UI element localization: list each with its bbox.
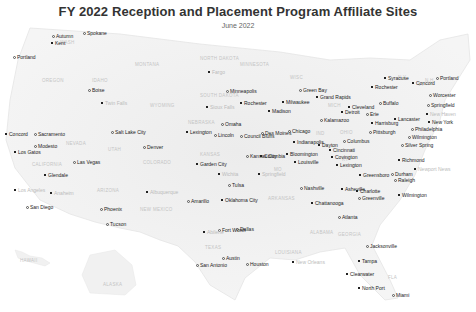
city-label: Twin Falls — [105, 101, 127, 106]
affiliate-square-marker-icon — [412, 82, 414, 84]
affiliate-square-marker-icon — [348, 106, 350, 108]
state-label: ARIZONA — [97, 188, 119, 193]
affiliate-ring-marker-icon — [34, 133, 37, 136]
affiliate-square-marker-icon — [292, 261, 294, 263]
affiliate-ring-marker-icon — [106, 223, 109, 226]
state-label: ARKANSAS — [268, 196, 295, 201]
affiliate-square-marker-icon — [398, 159, 400, 161]
affiliate-ring-marker-icon — [34, 145, 37, 148]
affiliate-ring-marker-icon — [300, 187, 303, 190]
map-canvas: FY 2022 Reception and Placement Program … — [0, 0, 476, 312]
affiliate-square-marker-icon — [146, 191, 148, 193]
affiliate-square-marker-icon — [50, 192, 52, 194]
city-label: Boise — [92, 88, 105, 93]
affiliate-ring-marker-icon — [111, 131, 114, 134]
city-label: Clearwater — [350, 272, 374, 277]
city-label: Atlanta — [342, 215, 358, 220]
city-label: Kalamazoo — [324, 118, 349, 123]
affiliate-square-marker-icon — [294, 161, 296, 163]
affiliate-ring-marker-icon — [261, 132, 264, 135]
affiliate-square-marker-icon — [240, 102, 242, 104]
city-label: Chicago — [292, 129, 310, 134]
state-label: COLORADO — [143, 160, 171, 165]
map-title: FY 2022 Reception and Placement Program … — [0, 4, 476, 19]
city-label: Rochester — [375, 85, 398, 90]
state-label: IND — [316, 131, 325, 136]
state-label: NEVADA — [66, 141, 86, 146]
state-label: FLA — [388, 275, 397, 280]
city-label: Greensboro — [363, 173, 389, 178]
state-label: NORTH DAKOTA — [200, 56, 239, 61]
affiliate-square-marker-icon — [371, 122, 373, 124]
affiliate-square-marker-icon — [221, 199, 223, 201]
city-label: Covington — [335, 155, 358, 160]
affiliate-ring-marker-icon — [366, 113, 369, 116]
state-label: IDAHO — [92, 78, 108, 83]
state-label: ALABAMA — [310, 230, 333, 235]
city-label: Concord — [416, 81, 435, 86]
affiliate-square-marker-icon — [341, 111, 343, 113]
affiliate-ring-marker-icon — [228, 184, 231, 187]
city-label: Miami — [396, 293, 409, 298]
city-label: Asheville — [345, 187, 365, 192]
state-label: MINNESOTA — [240, 62, 269, 67]
affiliate-ring-marker-icon — [221, 123, 224, 126]
city-label: Portland — [17, 55, 36, 60]
affiliate-ring-marker-icon — [401, 144, 404, 147]
city-label: Glendale — [48, 173, 68, 178]
state-label: MICH — [328, 103, 341, 108]
affiliate-square-marker-icon — [371, 86, 373, 88]
affiliate-ring-marker-icon — [288, 130, 291, 133]
affiliate-square-marker-icon — [336, 164, 338, 166]
city-label: Fargo — [212, 70, 225, 75]
affiliate-ring-marker-icon — [240, 135, 243, 138]
city-label: Silver Spring — [405, 143, 433, 148]
city-label: Milwaukee — [286, 100, 310, 105]
city-label: Louisville — [298, 160, 319, 165]
affiliate-ring-marker-icon — [394, 179, 397, 182]
affiliate-ring-marker-icon — [26, 206, 29, 209]
city-label: Los Gatos — [18, 150, 41, 155]
affiliate-square-marker-icon — [341, 188, 343, 190]
city-label: San Diego — [30, 205, 53, 210]
affiliate-ring-marker-icon — [320, 119, 323, 122]
affiliate-square-marker-icon — [186, 131, 188, 133]
affiliate-square-marker-icon — [311, 202, 313, 204]
city-label: Concord — [9, 132, 28, 137]
city-label: San Antonio — [200, 263, 227, 268]
city-label: Tucson — [110, 222, 126, 227]
affiliate-square-marker-icon — [196, 163, 198, 165]
state-label: HAWAII — [20, 258, 37, 263]
affiliate-square-marker-icon — [329, 149, 331, 151]
affiliate-square-marker-icon — [101, 102, 103, 104]
city-label: New Haven — [430, 112, 456, 117]
city-label: Garden City — [200, 162, 227, 167]
city-label: Spokane — [87, 31, 107, 36]
city-label: Lancaster — [398, 117, 420, 122]
affiliate-ring-marker-icon — [226, 90, 229, 93]
city-label: Columbus — [347, 139, 370, 144]
city-label: Denver — [147, 145, 163, 150]
city-label: Portland — [440, 76, 459, 81]
city-label: Autumn — [56, 34, 73, 39]
affiliate-ring-marker-icon — [299, 89, 302, 92]
affiliate-ring-marker-icon — [392, 294, 395, 297]
city-label: Houston — [250, 262, 269, 267]
city-label: Omaha — [225, 122, 241, 127]
city-label: Tulsa — [232, 183, 244, 188]
affiliate-ring-marker-icon — [436, 77, 439, 80]
state-label: TEXAS — [205, 245, 221, 250]
affiliate-ring-marker-icon — [369, 131, 372, 134]
affiliate-ring-marker-icon — [73, 161, 76, 164]
affiliate-square-marker-icon — [426, 113, 428, 115]
affiliate-square-marker-icon — [398, 194, 400, 196]
affiliate-square-marker-icon — [293, 141, 295, 143]
alaska-shape — [82, 250, 136, 295]
affiliate-square-marker-icon — [5, 133, 7, 135]
state-label: NEBRASKA — [188, 120, 215, 125]
city-label: Cleveland — [352, 105, 374, 110]
state-label: OHIO — [340, 130, 353, 135]
affiliate-square-marker-icon — [14, 189, 16, 191]
affiliate-square-marker-icon — [359, 174, 361, 176]
city-label: Newport News — [418, 167, 451, 172]
